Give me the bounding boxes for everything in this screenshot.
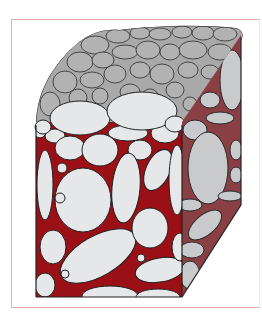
front-face [33,118,188,306]
conglomerate-block-diagram [0,0,262,317]
